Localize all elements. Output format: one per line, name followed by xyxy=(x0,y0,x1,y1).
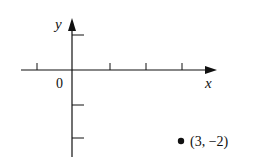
x-ticks xyxy=(37,63,182,70)
origin-label: 0 xyxy=(56,76,63,91)
coordinate-plane: y x 0 (3, −2) xyxy=(0,0,254,168)
x-axis-label: x xyxy=(204,75,212,91)
point-marker xyxy=(178,138,184,144)
y-ticks xyxy=(72,35,84,138)
x-axis-arrow-icon xyxy=(205,66,217,74)
point-label: (3, −2) xyxy=(190,134,229,150)
y-axis-label: y xyxy=(53,16,62,32)
y-axis-arrow-icon xyxy=(68,18,76,31)
